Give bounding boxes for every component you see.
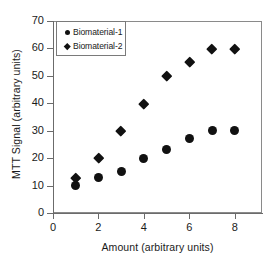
y-tick-mark	[47, 76, 53, 77]
scatter-chart-figure: 010203040506070 02468 MTT Signal (arbitr…	[0, 0, 277, 264]
x-tick-mark	[144, 213, 145, 219]
diamond-marker-icon	[61, 44, 73, 49]
y-tick-mark	[47, 21, 53, 22]
legend-label: Biomaterial-2	[73, 41, 122, 51]
x-axis-line	[53, 213, 263, 214]
y-tick-mark	[47, 158, 53, 159]
circle-marker-icon	[61, 30, 73, 35]
y-tick-mark	[47, 48, 53, 49]
data-point-circle	[117, 167, 126, 176]
x-tick-label: 8	[223, 222, 247, 233]
x-tick-label: 2	[86, 222, 110, 233]
marker-glyph	[64, 43, 70, 49]
y-axis-title: MTT Signal (arbitrary units)	[10, 24, 22, 204]
marker-glyph	[65, 30, 70, 35]
x-tick-mark	[189, 213, 190, 219]
x-axis-title: Amount (arbitrary units)	[53, 241, 262, 253]
data-point-circle	[208, 126, 217, 135]
data-point-circle	[139, 154, 148, 163]
legend-item: Biomaterial-2	[61, 39, 125, 53]
y-tick-mark	[47, 186, 53, 187]
x-tick-mark	[98, 213, 99, 219]
x-tick-label: 4	[132, 222, 156, 233]
data-point-circle	[94, 173, 103, 182]
x-tick-mark	[53, 213, 54, 219]
y-tick-mark	[47, 131, 53, 132]
y-axis-line	[53, 21, 54, 214]
x-tick-label: 0	[41, 222, 65, 233]
legend-item: Biomaterial-1	[61, 25, 125, 39]
x-tick-label: 6	[177, 222, 201, 233]
legend-label: Biomaterial-1	[73, 27, 122, 37]
y-tick-mark	[47, 103, 53, 104]
y-tick-label: 0	[10, 207, 44, 218]
x-tick-mark	[235, 213, 236, 219]
chart-legend: Biomaterial-1Biomaterial-2	[56, 21, 126, 56]
